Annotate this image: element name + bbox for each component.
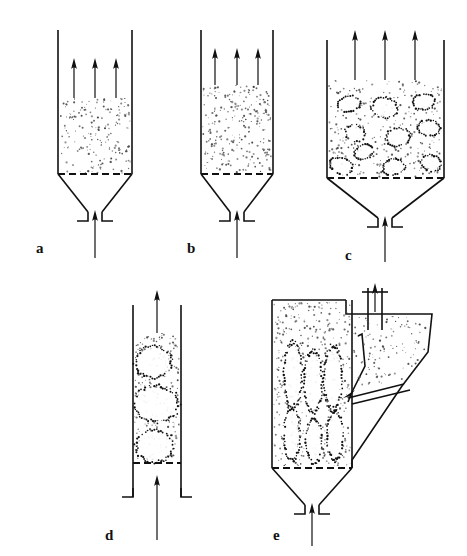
panel-e-void-1	[282, 339, 303, 411]
panel-e-gas-inlet	[294, 503, 330, 546]
panel-a-cone-left	[58, 174, 88, 212]
inlet-gas-arrow	[382, 216, 388, 262]
panel-d-inlet-lip-left	[122, 488, 133, 497]
panel-b-gas-arrow-3	[255, 48, 261, 85]
panel-b-bed-particles	[202, 84, 272, 173]
panel-label-c: c	[345, 248, 352, 263]
panel-label-d: d	[105, 528, 113, 543]
panel-c-cone-left	[327, 178, 378, 218]
panel-b-gas-inlet	[219, 210, 255, 258]
panel-d-inlet-lip-right	[181, 488, 192, 497]
panel-c-cone-right	[392, 178, 444, 218]
panel-b-cone-right	[244, 174, 273, 212]
panel-a-gas-arrow-2	[92, 58, 98, 98]
inlet-gas-arrow	[309, 503, 315, 546]
panel-a-gas-arrow-3	[113, 58, 119, 98]
panel-d-slug-2	[133, 383, 181, 424]
panel-e-separator-inner-wall	[352, 334, 365, 392]
panel-c-bubble-7	[353, 143, 374, 161]
panel-c-gas-arrow-1	[352, 30, 358, 80]
panel-b-gas-arrow-2	[234, 48, 240, 85]
panel-label-e: e	[273, 528, 280, 543]
panel-c-bubble-5	[384, 127, 411, 148]
inlet-gas-arrow	[234, 210, 240, 258]
inlet-gas-arrow	[92, 210, 98, 258]
panel-d-gas-arrow-1	[154, 290, 160, 333]
panel-c-bubble-9	[382, 158, 407, 176]
fluidization-regimes-figure: a b c d e	[0, 0, 467, 556]
panel-b-gas-arrow-1	[212, 48, 218, 85]
panel-c-gas-inlet	[367, 216, 403, 262]
figure-canvas	[0, 0, 467, 556]
panel-e-gas-exit-arrow	[372, 283, 378, 312]
panel-e-cone-right	[319, 468, 352, 505]
panel-a-gas-inlet	[77, 210, 113, 258]
panel-a-bed-particles	[60, 97, 132, 173]
panel-c-bubble-6	[416, 119, 441, 137]
panel-e-void-4	[283, 406, 301, 463]
panel-c-bubble-10	[420, 153, 442, 172]
panel-label-a: a	[36, 241, 44, 256]
panel-a-cone-right	[102, 174, 132, 212]
panel-c-gas-arrow-2	[382, 30, 388, 80]
panel-c-bubble-8	[329, 157, 354, 176]
panel-e-cone-left	[272, 468, 305, 505]
panel-e-return-leg-inner	[352, 390, 410, 404]
panel-e-void-5	[304, 417, 323, 465]
panel-c-bubble-1	[337, 95, 362, 113]
panel-d-inlet-gas-arrow	[154, 475, 160, 540]
panel-a-gas-arrow-1	[71, 58, 77, 98]
panel-c-gas-arrow-3	[412, 30, 418, 80]
panel-label-b: b	[187, 241, 195, 256]
panel-d-slug-3	[133, 428, 174, 464]
panel-b-cone-left	[201, 174, 230, 212]
panel-c-bubble-3	[412, 93, 436, 111]
panel-e-void-2	[302, 348, 323, 415]
